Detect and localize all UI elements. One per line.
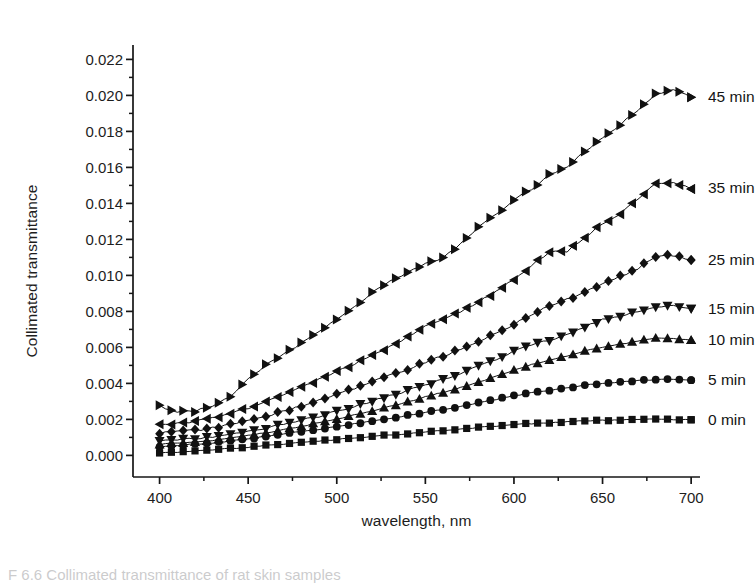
- data-series-layer: [155, 86, 697, 457]
- x-tick-label: 500: [324, 489, 349, 506]
- y-tick-label: 0.000: [35, 447, 123, 464]
- data-series: [155, 333, 697, 449]
- y-tick-label: 0.006: [35, 339, 123, 356]
- x-tick-label: 550: [413, 489, 438, 506]
- y-tick-label: 0.016: [35, 159, 123, 176]
- figure-caption: F 6.6 Collimated transmittance of rat sk…: [8, 566, 341, 583]
- y-tick-label: 0.002: [35, 411, 123, 428]
- series-label-10-min: 10 min: [708, 331, 755, 349]
- series-label-5-min: 5 min: [708, 371, 746, 389]
- x-tick-label: 450: [236, 489, 261, 506]
- x-tick-label: 600: [501, 489, 526, 506]
- data-series: [155, 302, 697, 446]
- y-tick-label: 0.008: [35, 303, 123, 320]
- data-series: [156, 415, 695, 456]
- y-tick-label: 0.004: [35, 375, 123, 392]
- x-axis-title: wavelength, nm: [133, 512, 700, 530]
- x-tick-label: 650: [590, 489, 615, 506]
- y-tick-label: 0.012: [35, 231, 123, 248]
- series-label-15-min: 15 min: [708, 300, 755, 318]
- data-series: [155, 250, 695, 439]
- series-label-0-min: 0 min: [708, 411, 746, 429]
- data-series: [156, 375, 695, 451]
- y-tick-label: 0.020: [35, 87, 123, 104]
- y-tick-label: 0.014: [35, 195, 123, 212]
- series-label-45-min: 45 min: [708, 88, 755, 106]
- axis-lines: [126, 45, 700, 484]
- series-label-35-min: 35 min: [708, 179, 755, 197]
- y-tick-label: 0.010: [35, 267, 123, 284]
- data-series: [156, 86, 696, 417]
- x-tick-label: 400: [147, 489, 172, 506]
- series-label-25-min: 25 min: [708, 251, 755, 269]
- y-tick-label: 0.018: [35, 123, 123, 140]
- x-tick-label: 700: [679, 489, 704, 506]
- y-tick-label: 0.022: [35, 51, 123, 68]
